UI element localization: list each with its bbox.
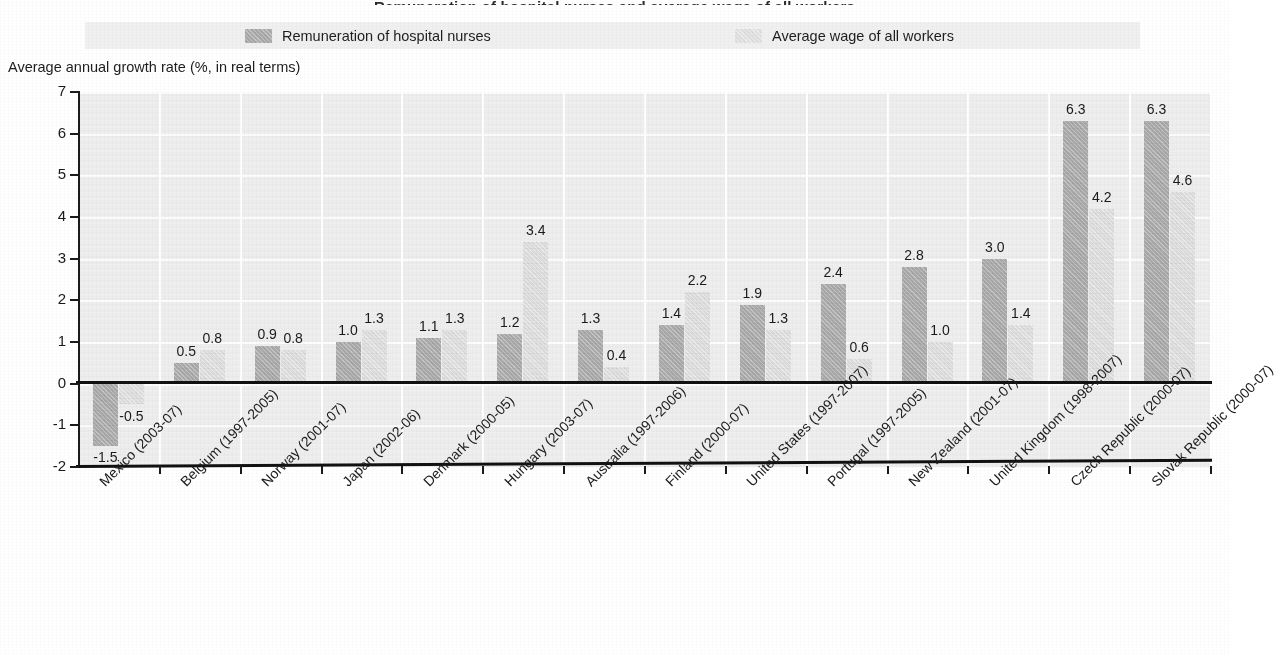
gridline-vertical bbox=[887, 92, 889, 467]
y-axis-tick bbox=[70, 383, 79, 385]
bar-light bbox=[1008, 325, 1033, 383]
y-axis-tick bbox=[70, 341, 79, 343]
x-axis-tick bbox=[806, 466, 808, 474]
y-axis-tick-label: 0 bbox=[40, 374, 66, 391]
bar-value-label: 3.0 bbox=[975, 239, 1014, 255]
y-axis-tick bbox=[70, 174, 79, 176]
bar-dark bbox=[1063, 121, 1088, 384]
bar-value-label: 1.0 bbox=[921, 322, 960, 338]
y-axis-tick bbox=[70, 133, 79, 135]
bar-value-label: 2.2 bbox=[678, 272, 717, 288]
bar-value-label: 1.9 bbox=[733, 285, 772, 301]
bar-light bbox=[928, 342, 953, 384]
bar-dark bbox=[255, 346, 280, 384]
y-axis-tick bbox=[70, 466, 79, 468]
zero-baseline bbox=[76, 381, 1212, 384]
y-axis-tick-label: 7 bbox=[40, 82, 66, 99]
bar-value-label: 1.3 bbox=[435, 310, 474, 326]
y-axis-tick bbox=[70, 258, 79, 260]
bar-value-label: 3.4 bbox=[516, 222, 555, 238]
bar-value-label: 6.3 bbox=[1137, 101, 1176, 117]
bar-dark bbox=[821, 284, 846, 384]
x-axis-tick bbox=[887, 466, 889, 474]
bar-value-label: 1.4 bbox=[1001, 305, 1040, 321]
y-axis-tick bbox=[70, 216, 79, 218]
bar-value-label: 0.4 bbox=[597, 347, 636, 363]
y-axis-tick-label: -2 bbox=[40, 457, 66, 474]
legend-label-workers: Average wage of all workers bbox=[772, 28, 954, 44]
clipped-chart-title-text: Remuneration of hospital nurses and aver… bbox=[0, 0, 1229, 5]
bar-dark bbox=[416, 338, 441, 384]
bar-value-label: 0.6 bbox=[840, 339, 879, 355]
x-axis-tick bbox=[725, 466, 727, 474]
x-axis-tick bbox=[401, 466, 403, 474]
bar-value-label: 1.3 bbox=[355, 310, 394, 326]
bar-value-label: 4.2 bbox=[1082, 189, 1121, 205]
gridline-vertical bbox=[240, 92, 242, 467]
y-axis-title: Average annual growth rate (%, in real t… bbox=[8, 59, 300, 75]
x-axis-tick bbox=[563, 466, 565, 474]
gridline-vertical bbox=[1129, 92, 1131, 467]
gridline-vertical bbox=[321, 92, 323, 467]
gridline-vertical bbox=[482, 92, 484, 467]
bar-light bbox=[281, 350, 306, 383]
y-axis-tick bbox=[70, 299, 79, 301]
gridline-vertical bbox=[563, 92, 565, 467]
legend-item-workers: Average wage of all workers bbox=[735, 22, 954, 49]
y-axis-tick-label: 2 bbox=[40, 290, 66, 307]
gridline-vertical bbox=[1048, 92, 1050, 467]
legend-swatch-workers-icon bbox=[735, 29, 762, 43]
x-axis-tick bbox=[1129, 466, 1131, 474]
gridline-vertical bbox=[967, 92, 969, 467]
y-axis-tick-label: -1 bbox=[40, 415, 66, 432]
bar-value-label: 1.4 bbox=[652, 305, 691, 321]
legend-label-nurses: Remuneration of hospital nurses bbox=[282, 28, 491, 44]
y-axis-line bbox=[78, 91, 80, 468]
bar-value-label: 0.8 bbox=[274, 330, 313, 346]
bar-value-label: 1.3 bbox=[571, 310, 610, 326]
gridline-vertical bbox=[159, 92, 161, 467]
bar-value-label: 1.3 bbox=[759, 310, 798, 326]
bar-light bbox=[442, 330, 467, 384]
x-axis-tick bbox=[321, 466, 323, 474]
bar-value-label: 2.4 bbox=[814, 264, 853, 280]
clipped-chart-title: Remuneration of hospital nurses and aver… bbox=[0, 0, 1229, 5]
gridline-vertical bbox=[401, 92, 403, 467]
x-axis-tick bbox=[644, 466, 646, 474]
bar-value-label: 2.8 bbox=[895, 247, 934, 263]
y-axis-tick-label: 4 bbox=[40, 207, 66, 224]
y-axis-tick-label: 6 bbox=[40, 124, 66, 141]
x-axis-tick bbox=[1048, 466, 1050, 474]
gridline-vertical bbox=[806, 92, 808, 467]
legend-item-nurses: Remuneration of hospital nurses bbox=[245, 22, 491, 49]
y-axis-tick-label: 3 bbox=[40, 249, 66, 266]
x-axis-tick bbox=[482, 466, 484, 474]
bar-value-label: 6.3 bbox=[1056, 101, 1095, 117]
y-axis-tick-label: 5 bbox=[40, 165, 66, 182]
y-axis-tick-label: 1 bbox=[40, 332, 66, 349]
gridline-vertical bbox=[644, 92, 646, 467]
gridline-vertical bbox=[725, 92, 727, 467]
bar-dark bbox=[497, 334, 522, 384]
bar-value-label: 0.8 bbox=[193, 330, 232, 346]
x-axis-tick bbox=[967, 466, 969, 474]
x-axis-tick bbox=[240, 466, 242, 474]
bar-value-label: 4.6 bbox=[1163, 172, 1202, 188]
y-axis-tick bbox=[70, 91, 79, 93]
bar-value-label: 1.2 bbox=[490, 314, 529, 330]
x-axis-tick bbox=[159, 466, 161, 474]
bar-dark bbox=[1144, 121, 1169, 384]
x-axis-tick bbox=[1210, 466, 1212, 474]
legend-background bbox=[85, 22, 1140, 49]
bar-dark bbox=[336, 342, 361, 384]
bar-light bbox=[766, 330, 791, 384]
bar-light bbox=[1170, 192, 1195, 384]
bar-dark bbox=[659, 325, 684, 383]
legend-swatch-nurses-icon bbox=[245, 29, 272, 43]
bar-light bbox=[119, 384, 144, 405]
bar-value-label: -0.5 bbox=[112, 408, 151, 424]
y-axis-tick bbox=[70, 424, 79, 426]
